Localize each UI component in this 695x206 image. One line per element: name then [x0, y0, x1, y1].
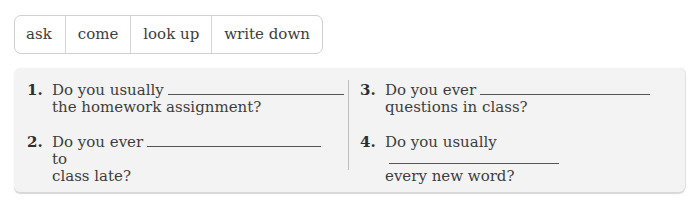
- question-number: 1.: [27, 82, 43, 99]
- question-text: Do you usually: [52, 81, 164, 99]
- question-1: 1. Do you usually the homework assignmen…: [27, 82, 345, 116]
- word-bank-item: come: [65, 16, 131, 53]
- question-text: Do you ever: [52, 133, 143, 151]
- answer-blank[interactable]: [480, 84, 650, 95]
- questions-right-column: 3. Do you ever questions in class? 4. Do…: [360, 82, 660, 203]
- question-number: 3.: [360, 82, 376, 99]
- question-text-after: to: [52, 150, 67, 168]
- question-text-line2: questions in class?: [385, 98, 528, 116]
- question-text: Do you ever: [385, 81, 476, 99]
- word-bank-item: write down: [211, 16, 322, 53]
- question-3: 3. Do you ever questions in class?: [360, 82, 660, 116]
- answer-blank[interactable]: [147, 136, 321, 147]
- question-text-line2: the homework assignment?: [52, 98, 261, 116]
- question-text: Do you usually: [385, 133, 497, 151]
- column-divider: [348, 80, 349, 170]
- questions-left-column: 1. Do you usually the homework assignmen…: [27, 82, 345, 203]
- word-bank-item: look up: [130, 16, 211, 53]
- question-number: 2.: [27, 134, 43, 151]
- question-4: 4. Do you usually every new word?: [360, 134, 660, 185]
- word-bank: ask come look up write down: [14, 15, 323, 54]
- answer-blank[interactable]: [389, 153, 559, 164]
- question-text-line2: every new word?: [385, 167, 514, 185]
- exercise-panel: 1. Do you usually the homework assignmen…: [14, 68, 685, 192]
- question-text-line2: class late?: [52, 167, 131, 185]
- question-2: 2. Do you everto class late?: [27, 134, 345, 185]
- answer-blank[interactable]: [168, 84, 344, 95]
- question-number: 4.: [360, 134, 376, 151]
- word-bank-item: ask: [15, 16, 65, 53]
